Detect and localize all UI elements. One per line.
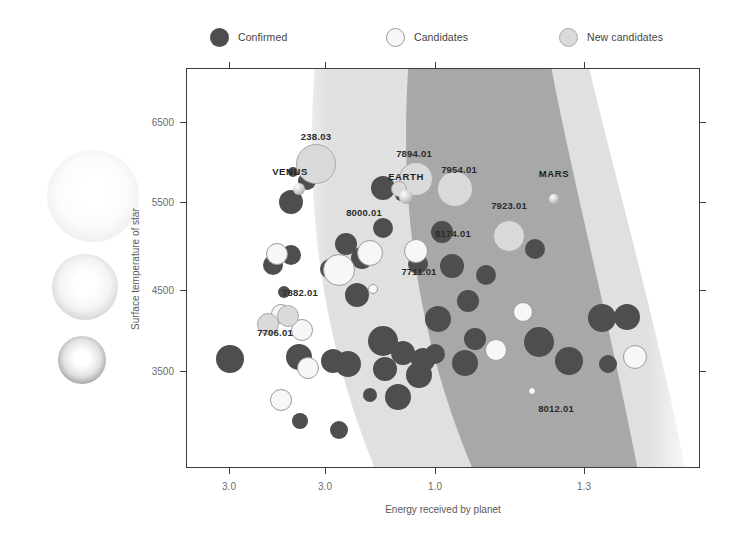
y-axis-tick-right (700, 122, 706, 123)
x-axis-tick-label: 3.0 (222, 481, 236, 492)
exoplanet-habitable-zone-figure: ConfirmedCandidatesNew candidates 238.03… (0, 0, 741, 543)
point-label-7711-01: 7711.01 (401, 266, 436, 277)
x-axis-tick-top (325, 62, 326, 68)
star-orb-small (58, 336, 106, 384)
point-label-7894-01: 7894.01 (396, 148, 432, 159)
point-label-earth: EARTH (388, 171, 424, 182)
y-axis-tick-label: 6500 (144, 117, 174, 128)
x-axis-tick-label: 3.0 (318, 481, 332, 492)
y-axis-tick-right (700, 290, 706, 291)
star-orb-large (47, 150, 139, 242)
x-axis-tick-label: 1.3 (577, 481, 591, 492)
x-axis-tick (325, 468, 326, 474)
point-label-7923-01: 7923.01 (491, 200, 527, 211)
chart-legend: ConfirmedCandidatesNew candidates (210, 22, 670, 52)
x-axis-tick-top (435, 62, 436, 68)
y-axis-tick (180, 290, 186, 291)
legend-swatch-newcand-icon (559, 28, 578, 47)
point-label-layer: 238.03VENUS7894.01EARTH7954.01MARS8000.0… (187, 69, 699, 467)
x-axis-tick (229, 468, 230, 474)
y-axis-tick-right (700, 202, 706, 203)
point-label-7706-01: 7706.01 (257, 327, 293, 338)
x-axis-tick-top (584, 62, 585, 68)
y-axis-tick-label: 4500 (144, 285, 174, 296)
point-label-7954-01: 7954.01 (441, 164, 477, 175)
y-axis-tick (180, 202, 186, 203)
y-axis-tick (180, 122, 186, 123)
legend-swatch-candidate-icon (386, 28, 405, 47)
y-axis-tick (180, 371, 186, 372)
point-label-7882-01: 7882.01 (282, 287, 318, 298)
y-axis-tick-right (700, 371, 706, 372)
legend-item-confirmed[interactable]: Confirmed (210, 22, 287, 52)
point-label-mars: MARS (539, 168, 569, 179)
legend-item-candidate[interactable]: Candidates (386, 22, 468, 52)
point-label-venus: VENUS (272, 166, 308, 177)
x-axis-tick (584, 468, 585, 474)
legend-item-newcand[interactable]: New candidates (559, 22, 663, 52)
point-label-8012-01: 8012.01 (538, 403, 574, 414)
legend-label: Confirmed (238, 31, 287, 43)
x-axis-tick (435, 468, 436, 474)
point-label-8000-01: 8000.01 (346, 207, 382, 218)
x-axis-title: Energy received by planet (385, 504, 501, 515)
plot-area: 238.03VENUS7894.01EARTH7954.01MARS8000.0… (186, 68, 700, 468)
legend-swatch-confirmed-icon (210, 28, 229, 47)
y-axis-tick-label: 5500 (144, 197, 174, 208)
point-label-8174-01: 8174.01 (435, 228, 471, 239)
x-axis-tick-top (229, 62, 230, 68)
legend-label: Candidates (414, 31, 468, 43)
y-axis-title: Surface temperature of star (130, 208, 141, 330)
x-axis-tick-label: 1.0 (428, 481, 442, 492)
legend-label: New candidates (587, 31, 663, 43)
star-orb-medium (52, 254, 118, 320)
y-axis-tick-label: 3500 (144, 366, 174, 377)
point-label-238-03: 238.03 (301, 131, 331, 142)
